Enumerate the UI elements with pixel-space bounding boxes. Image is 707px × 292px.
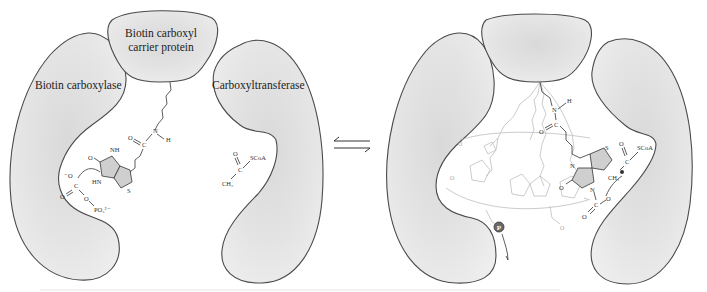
left-panel: Biotin carboxyl carrier protein Biotin c…: [10, 11, 323, 283]
reverse-arrow-head: [334, 137, 339, 141]
biotin-nh: NH: [110, 146, 120, 153]
carboxyphosphate-o-bridge: O: [84, 195, 89, 202]
acoa-c-s-bond: [243, 161, 250, 168]
acetylcoa-c: C: [238, 166, 242, 173]
equilibrium-arrow: [334, 137, 370, 152]
acetylcoa-scoa: SCoA: [250, 154, 266, 161]
carboxyphosphate-c: C: [74, 182, 78, 189]
ghost-chain-3: [490, 82, 540, 146]
carboxyltransferase-label: Carboxyltransferase: [212, 79, 305, 92]
ghost-o-1: O: [458, 141, 463, 147]
bccp-label-line2: carrier protein: [128, 41, 194, 54]
biotin-o-right: O: [559, 184, 564, 191]
amide-n-right: N: [552, 106, 557, 113]
valeryl-chain: [130, 149, 143, 180]
carboxyphosphate-o-minus: ⁻O: [64, 172, 73, 179]
acoa-ch3-bond-right: [620, 166, 624, 170]
ghost-arrowhead: [584, 198, 590, 200]
biotin-o: O: [88, 154, 93, 161]
ghost-o-2: O: [450, 175, 455, 181]
carboxyl-o-double-right: O: [582, 213, 587, 220]
carboxyphosphate-o-double: O: [60, 193, 65, 200]
acetylcoa-ch3-right: CH₃: [608, 174, 619, 181]
biotin-thiophane-ring-right: [590, 148, 612, 170]
bccp-label-line1: Biotin carboxyl: [125, 27, 197, 40]
ghost-carboxyl-2: [550, 206, 560, 224]
amide-n: N: [153, 127, 158, 134]
biotin-ureido-ring-right: [572, 168, 594, 188]
valeryl-chain-right: [560, 126, 590, 158]
ghost-ring-1: [470, 160, 490, 182]
acetylcoa-c-right: C: [625, 158, 629, 165]
biotin-carboxylase-blob: [10, 33, 126, 280]
acoa-c-s-bond-right: [630, 152, 638, 160]
amide-c: C: [142, 141, 146, 148]
ureido-co-bond-right: [566, 180, 572, 184]
right-panel: O O O O N H C O S N N O C O O: [387, 14, 693, 284]
ghost-ring-3: [530, 176, 550, 196]
biotin-carboxylase-label: Biotin carboxylase: [35, 79, 122, 92]
acoa-ch3-bond: [231, 174, 236, 179]
forward-arrow-head: [365, 148, 370, 152]
nh-bond: [157, 134, 164, 139]
acetylcoa-o: O: [233, 150, 238, 157]
cn-bond-right: [555, 113, 556, 120]
amide-h: H: [166, 136, 171, 143]
mechanism-diagram: Biotin carboxyl carrier protein Biotin c…: [0, 0, 707, 292]
acetylcoa-o-right: O: [619, 140, 624, 147]
biotin-carboxylase-blob-right: [387, 33, 496, 283]
biotin-s: S: [127, 187, 131, 194]
acetylcoa-scoa-right: SCoA: [637, 144, 653, 151]
ureido-co-bond: [94, 158, 100, 162]
amide-o: O: [128, 134, 133, 141]
nucleophilic-attack-arrow: [78, 169, 100, 178]
acetylcoa-ch3: CH₃: [222, 180, 233, 187]
biotin-s-right: S: [605, 144, 609, 151]
amide-h-right: H: [567, 97, 572, 104]
lysine-chain: [155, 82, 171, 130]
biotin-n-top-right: N: [570, 162, 575, 169]
amide-c-right: C: [554, 121, 558, 128]
ghost-amide-arc: [460, 132, 590, 140]
phosphate-badge-label: P: [497, 224, 502, 232]
ghost-o-4: O: [560, 225, 565, 231]
cn-bond: [146, 134, 152, 141]
carboxyl-c-right: C: [594, 201, 598, 208]
phosphate-exit-arrow: [502, 234, 508, 260]
carboxyl-o-minus-right: O: [606, 195, 611, 202]
n-c-bond-right: [594, 192, 596, 200]
biotin-hn: HN: [92, 178, 102, 185]
amide-o-right: O: [539, 128, 544, 135]
bccp-blob-right: [482, 14, 592, 82]
ghost-trajectory-arc: [446, 188, 588, 209]
carboxyltransferase-blob: [213, 40, 323, 283]
ghost-valeryl-2: [540, 144, 544, 186]
carbanion-dot: [620, 170, 624, 174]
ghost-ring-2: [510, 174, 530, 196]
nh-bond-right: [558, 103, 566, 109]
carboxyphosphate-po3: PO₃²⁻: [94, 206, 111, 213]
